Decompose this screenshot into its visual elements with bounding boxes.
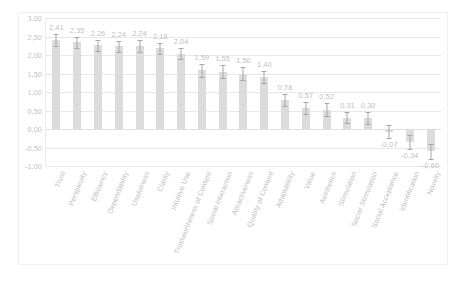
bar [177,54,185,129]
error-cap-bottom [241,80,246,81]
error-cap-bottom [199,77,204,78]
error-bar [347,112,348,124]
error-bar [139,40,140,52]
x-axis-label: Perspicuity [67,170,89,207]
bar-value-label: 1,55 [215,54,230,63]
bar-chart: 3,002,502,001,501,000,500,00-0,50-1,00 2… [0,0,475,290]
error-cap-top [303,102,308,103]
bar-value-label: -0,07 [380,140,397,149]
error-cap-top [179,48,184,49]
bar-group: 0,30 [358,18,379,166]
error-bar [201,64,202,77]
x-axis-label: Adaptability [274,170,297,209]
error-cap-top [116,41,121,42]
error-cap-top [387,125,392,126]
bar-value-label: -0,34 [401,151,418,160]
x-axis-label: Efficiency [89,170,109,203]
error-cap-top [366,112,371,113]
error-cap-bottom [324,116,329,117]
bar-group: 1,55 [212,18,233,166]
error-cap-bottom [387,138,392,139]
error-bar [56,34,57,46]
bar-value-label: 1,40 [257,60,272,69]
error-cap-top [345,112,350,113]
error-bar [326,103,327,116]
x-axis-label: Aesthetics [317,170,338,205]
error-bar [368,112,369,124]
error-cap-top [75,37,80,38]
x-axis-label: Stimulation [337,170,359,207]
y-tick-label: 1,00 [0,88,42,97]
bar [239,74,247,130]
error-bar [243,67,244,80]
bar-value-label: 0,57 [299,91,314,100]
bar-group: 2,35 [67,18,88,166]
bar-value-label: -0,60 [422,161,439,170]
x-axis-label: Dependability [105,170,130,215]
y-tick-label: 0,00 [0,125,42,134]
error-cap-top [407,135,412,136]
bar-value-label: 2,24 [132,29,147,38]
x-axis-labels: TrustPerspicuityEfficiencyDependabilityU… [46,170,441,285]
bar-group: 1,40 [254,18,275,166]
error-bar [430,144,431,159]
error-cap-bottom [407,149,412,150]
bar [156,48,164,129]
error-bar [118,41,119,52]
x-axis-label: Trust [53,170,68,189]
error-bar [389,125,390,138]
bar-group: 2,26 [88,18,109,166]
y-tick-label: 0,50 [0,106,42,115]
bars-container: 2,412,352,262,242,242,182,041,591,551,50… [46,18,441,166]
bar-value-label: 2,04 [174,37,189,46]
error-bar [77,37,78,48]
y-tick-label: 2,00 [0,51,42,60]
x-axis-label: Value [302,170,317,190]
bar [260,77,268,129]
error-cap-top [283,94,288,95]
bar-value-label: 1,50 [236,56,251,65]
error-cap-bottom [262,83,267,84]
bar-value-label: 2,18 [153,32,168,41]
bar-value-label: 2,26 [91,29,106,38]
error-cap-top [54,34,59,35]
error-bar [285,94,286,107]
error-bar [264,71,265,84]
y-tick-label: 3,00 [0,14,42,23]
gridline [46,166,441,167]
y-tick-label: -1,00 [0,162,42,171]
bar [94,45,102,129]
x-axis-label: Usefulness [129,170,151,207]
bar [115,46,123,129]
error-cap-bottom [366,124,371,125]
x-axis-label: Identification [397,170,421,212]
bar-group: -0,34 [399,18,420,166]
error-bar [160,43,161,53]
error-cap-top [324,103,329,104]
error-cap-bottom [345,123,350,124]
x-axis-label: Clarity [155,170,171,193]
error-cap-top [137,40,142,41]
bar-group: 1,50 [233,18,254,166]
error-cap-bottom [303,114,308,115]
error-cap-bottom [220,78,225,79]
error-cap-top [241,67,246,68]
error-cap-bottom [137,52,142,53]
error-bar [97,40,98,50]
bar-value-label: 0,30 [361,101,376,110]
error-cap-top [158,43,163,44]
y-tick-label: 2,50 [0,32,42,41]
bar-value-label: 2,41 [49,23,64,32]
error-cap-top [199,64,204,65]
y-tick-label: -0,50 [0,143,42,152]
bar-value-label: 0,31 [340,101,355,110]
bar-group: 2,24 [129,18,150,166]
bar-group: 2,18 [150,18,171,166]
error-cap-top [95,40,100,41]
bar-value-label: 1,59 [195,53,210,62]
error-cap-top [262,71,267,72]
bar [198,70,206,129]
bar-value-label: 0,78 [278,83,293,92]
bar-group: 0,78 [275,18,296,166]
bar-value-label: 2,35 [70,26,85,35]
